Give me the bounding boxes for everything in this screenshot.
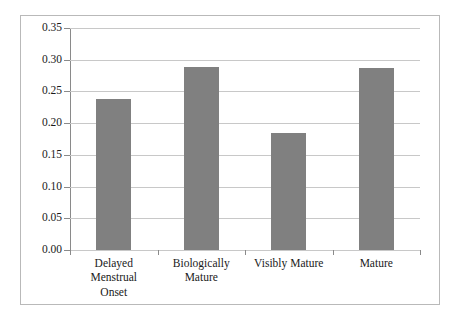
gridline [70,28,420,29]
x-axis-tick-mark [158,250,159,255]
y-axis-tick-label: 0.35 [18,22,62,34]
y-axis-tick-label: 0.30 [18,54,62,66]
y-axis-tick-label: 0.10 [18,181,62,193]
x-axis-label-line: Onset [100,286,127,298]
x-axis-label-line: Delayed Menstrual [90,257,137,283]
x-axis-label-line: Mature [185,271,218,283]
bar [96,99,131,250]
y-axis-tick-mark [64,123,70,124]
x-axis-category-label: Visibly Mature [245,256,333,270]
y-axis-tick-label: 0.15 [18,149,62,161]
x-axis-category-label: Delayed MenstrualOnset [70,256,158,299]
bar [271,133,306,250]
y-axis-tick-label: 0.25 [18,85,62,97]
y-axis-tick-mark [64,218,70,219]
y-axis-tick-mark [64,187,70,188]
gridline [70,60,420,61]
bar [184,67,219,250]
plot-area [70,28,420,250]
y-axis-tick-mark [64,60,70,61]
x-axis-tick-mark [70,250,71,255]
figure-canvas: 0.000.050.100.150.200.250.300.35 Delayed… [0,0,464,322]
bar [359,68,394,250]
y-axis-tick-mark [64,28,70,29]
y-axis-tick-label: 0.00 [18,244,62,256]
x-axis-label-line: Visibly Mature [254,257,323,269]
y-axis-tick-label: 0.20 [18,117,62,129]
y-axis-tick-label: 0.05 [18,212,62,224]
x-axis-tick-mark [245,250,246,255]
x-axis-tick-mark [333,250,334,255]
x-axis-label-line: Mature [360,257,393,269]
x-axis-label-line: Biologically [173,257,230,269]
y-axis-tick-mark [64,155,70,156]
x-axis-category-label: Mature [333,256,421,270]
x-axis-category-label: BiologicallyMature [158,256,246,285]
y-axis-tick-labels: 0.000.050.100.150.200.250.300.35 [14,0,62,322]
y-axis-tick-mark [64,91,70,92]
x-axis-tick-mark [420,250,421,255]
